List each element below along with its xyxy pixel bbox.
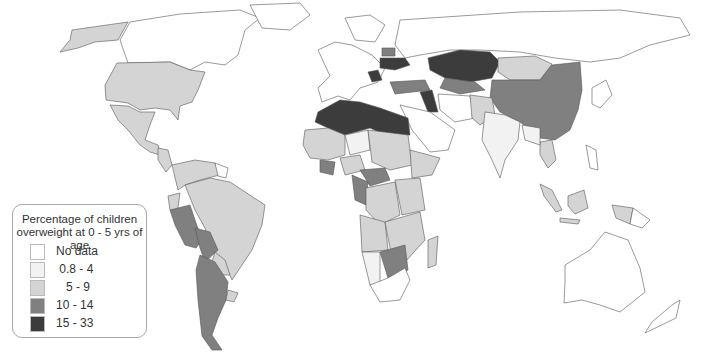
region-new-guinea xyxy=(612,205,633,224)
legend-label: 10 - 14 xyxy=(56,298,93,313)
region-sumatra xyxy=(540,184,562,212)
region-philippines xyxy=(586,145,598,170)
region-namibia xyxy=(362,252,380,285)
region-horn xyxy=(410,150,440,178)
region-gulf-guinea xyxy=(320,160,335,175)
region-iraq xyxy=(420,90,438,112)
region-central-america xyxy=(158,148,172,172)
swatch-15-33 xyxy=(30,316,45,332)
region-sudan-chad xyxy=(368,130,412,170)
region-canada xyxy=(120,10,260,70)
region-java xyxy=(560,218,580,224)
legend-item-no-data: No data xyxy=(30,244,140,260)
region-alaska xyxy=(60,22,128,52)
region-australia xyxy=(564,232,645,312)
legend-item-5-9: 5 - 9 xyxy=(30,280,140,296)
region-madagascar xyxy=(428,236,438,268)
legend-title-line1: Percentage of children xyxy=(13,213,146,226)
legend-item-15-33: 15 - 33 xyxy=(30,316,140,332)
legend-label: 0.8 - 4 xyxy=(56,262,93,277)
map-legend: Percentage of children overweight at 0 -… xyxy=(12,204,147,338)
region-uruguay xyxy=(226,290,238,302)
region-japan xyxy=(592,80,612,108)
region-west-sahel xyxy=(303,128,345,160)
region-kazakhstan xyxy=(428,50,500,82)
region-indochina xyxy=(522,125,540,145)
legend-label: No data xyxy=(56,244,98,259)
legend-item-10-14: 10 - 14 xyxy=(30,298,140,314)
region-belarus xyxy=(382,48,395,56)
region-iran xyxy=(438,94,475,122)
swatch-10-14 xyxy=(30,298,45,314)
region-thailand xyxy=(540,140,556,168)
swatch-0-8-4 xyxy=(30,262,45,278)
region-mexico xyxy=(110,105,160,155)
legend-label: 15 - 33 xyxy=(56,316,93,331)
region-scandinavia xyxy=(345,15,385,42)
swatch-no-data xyxy=(30,244,45,260)
region-png xyxy=(630,208,650,228)
swatch-5-9 xyxy=(30,280,45,296)
legend-label: 5 - 9 xyxy=(56,280,90,295)
legend-item-0-8-4: 0.8 - 4 xyxy=(30,262,140,278)
region-east-africa xyxy=(395,178,425,215)
region-russia xyxy=(395,10,690,62)
region-india xyxy=(482,112,520,178)
region-ecuador xyxy=(168,193,180,210)
region-borneo xyxy=(568,190,588,214)
region-new-zealand xyxy=(645,300,680,333)
region-ukraine xyxy=(380,58,410,70)
region-greenland xyxy=(250,3,310,30)
